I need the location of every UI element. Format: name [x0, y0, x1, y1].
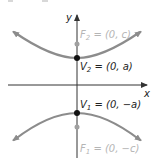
clipped-text-fragments [8, 0, 48, 2]
focus-f1-dot [75, 125, 80, 130]
focus-f1-label: F1 = (0, −c) [80, 143, 139, 156]
vertex-v2-label: V2 = (0, a) [80, 61, 133, 74]
vertex-v1-dot [74, 110, 80, 116]
focus-f2-label: F2 = (0, c) [80, 29, 131, 42]
x-axis-label: x [143, 88, 150, 99]
focus-f2-dot [75, 42, 80, 47]
y-axis-label: y [65, 12, 73, 23]
hyperbola-diagram: y x F2 = (0, c) V2 = (0, a) V1 = (0, −a)… [0, 0, 156, 159]
vertex-v1-label: V1 = (0, −a) [80, 99, 141, 112]
